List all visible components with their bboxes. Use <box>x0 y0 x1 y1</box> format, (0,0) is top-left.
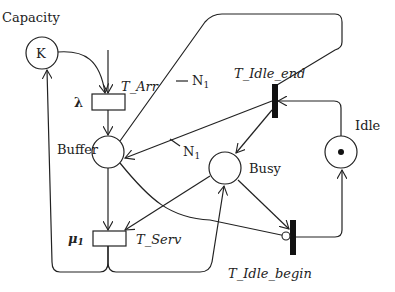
arc-t-serv-to-busy <box>108 186 224 272</box>
transition-t-arr[interactable] <box>92 94 125 110</box>
label-busy: Busy <box>249 161 282 176</box>
transition-t-idle-end[interactable] <box>272 84 278 118</box>
label-t-arr: T_Arr <box>121 79 159 94</box>
arc-t-idle-end-to-busy <box>236 110 272 153</box>
arc-t-idle-begin-to-idle <box>296 170 342 237</box>
weight-tick-2 <box>170 139 180 146</box>
label-t-serv: T_Serv <box>136 232 182 247</box>
arc-buffer-to-t-idle-end <box>120 14 342 141</box>
transition-t-idle-begin[interactable] <box>290 220 296 255</box>
label-capacity: Capacity <box>2 10 60 25</box>
transition-t-serv[interactable] <box>93 231 126 246</box>
label-buffer: Buffer <box>57 142 99 157</box>
inhibitor-circle <box>282 232 290 240</box>
label-lambda: λ <box>74 95 83 110</box>
arc-idle-to-t-idle-end <box>278 101 341 136</box>
place-busy[interactable] <box>209 152 241 184</box>
petri-net-diagram: Capacity K Buffer Busy Idle T_Arr λ T_Se… <box>0 0 395 292</box>
label-idle: Idle <box>355 118 381 133</box>
label-weight-1: N1 <box>192 73 209 90</box>
label-mu: μ1 <box>68 231 84 247</box>
token-idle <box>338 149 344 155</box>
arc-capacity-to-t-arr <box>58 52 105 93</box>
label-t-idle-begin: T_Idle_begin <box>228 266 312 281</box>
label-weight-2: N1 <box>183 144 200 161</box>
label-t-idle-end: T_Idle_end <box>234 66 305 81</box>
arc-t-idle-end-to-buffer <box>125 101 272 158</box>
arc-busy-to-t-idle-begin <box>238 180 289 229</box>
label-k: K <box>36 46 46 61</box>
